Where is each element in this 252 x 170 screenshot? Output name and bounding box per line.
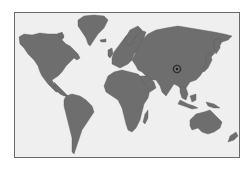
world-map [0, 0, 252, 170]
new-guinea [206, 102, 220, 108]
central-america [54, 82, 68, 96]
north-america [19, 32, 80, 92]
new-zealand [228, 132, 238, 142]
location-marker-icon[interactable] [173, 65, 180, 72]
madagascar [143, 110, 148, 124]
borneo [190, 94, 196, 102]
indonesia [178, 100, 198, 109]
south-america [64, 94, 94, 154]
uk-ireland [108, 48, 113, 58]
iceland [100, 39, 106, 42]
australia [190, 110, 222, 134]
southeast-asia [180, 86, 188, 100]
